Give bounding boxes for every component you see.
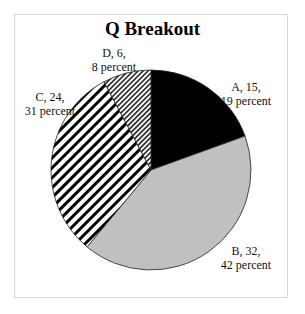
label-d-line2: 8 percent bbox=[82, 60, 146, 74]
label-b-line2: 42 percent bbox=[208, 258, 284, 272]
label-d: D, 6, 8 percent bbox=[82, 46, 146, 74]
label-d-line1: D, 6, bbox=[82, 46, 146, 60]
label-b: B, 32, 42 percent bbox=[208, 244, 284, 272]
label-a-line1: A, 15, bbox=[208, 80, 284, 94]
label-a: A, 15, 19 percent bbox=[208, 80, 284, 108]
label-c-line1: C, 24, bbox=[14, 90, 86, 104]
label-b-line1: B, 32, bbox=[208, 244, 284, 258]
label-a-line2: 19 percent bbox=[208, 94, 284, 108]
label-c: C, 24, 31 percent bbox=[14, 90, 86, 118]
label-c-line2: 31 percent bbox=[14, 104, 86, 118]
